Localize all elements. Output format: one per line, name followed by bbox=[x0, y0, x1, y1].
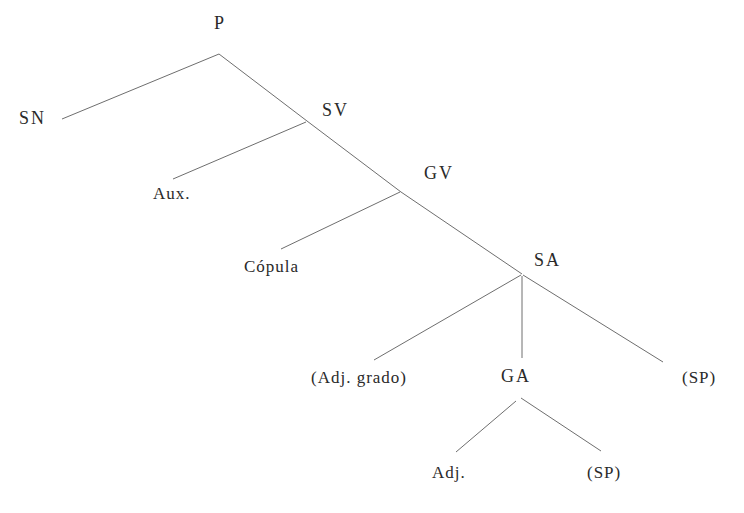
node-gv: GV bbox=[424, 165, 454, 182]
syntactic-tree-diagram: P SN SV Aux. GV Cópula SA (Adj. grado) G… bbox=[0, 0, 744, 513]
edge-sv-gv bbox=[307, 121, 401, 192]
node-sp-bottom: (SP) bbox=[587, 464, 621, 481]
node-adj: Adj. bbox=[432, 464, 466, 481]
node-sp-right: (SP) bbox=[682, 369, 716, 386]
edge-gv-copula bbox=[281, 192, 400, 249]
node-ga: GA bbox=[501, 368, 531, 385]
node-copula: Cópula bbox=[244, 258, 299, 275]
edge-sv-aux bbox=[173, 122, 306, 179]
node-aux: Aux. bbox=[153, 185, 191, 202]
node-sa: SA bbox=[534, 252, 561, 269]
edge-p-sv bbox=[219, 54, 307, 121]
edge-ga-sp bbox=[521, 398, 601, 451]
node-p: P bbox=[214, 15, 226, 32]
node-sn: SN bbox=[19, 110, 46, 127]
edge-ga-adj bbox=[456, 401, 516, 452]
node-sv: SV bbox=[322, 102, 349, 119]
edge-gv-sa bbox=[401, 192, 522, 274]
tree-edges bbox=[0, 0, 744, 513]
edge-sa-sp bbox=[523, 275, 663, 362]
node-adj-grado: (Adj. grado) bbox=[311, 369, 407, 386]
edge-sa-adj-grado bbox=[374, 275, 521, 360]
edge-p-sn bbox=[62, 54, 219, 119]
